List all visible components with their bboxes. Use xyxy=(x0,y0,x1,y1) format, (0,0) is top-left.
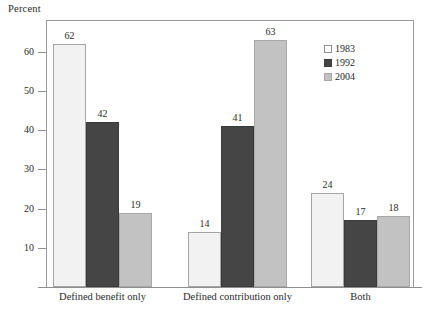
bar-2004-group-3[interactable] xyxy=(377,216,410,287)
bar-value-label-1992-group-2: 41 xyxy=(221,113,254,123)
bar-chart: Percent 102030405060 624219144163241718 … xyxy=(0,0,429,312)
bar-value-label-1983-group-2: 14 xyxy=(188,219,221,229)
y-axis-tick-label-60: 60 xyxy=(0,47,34,57)
legend-label-1992: 1992 xyxy=(335,58,355,68)
bar-1992-group-1[interactable] xyxy=(86,122,119,287)
bar-1983-group-1[interactable] xyxy=(53,44,86,287)
bar-1992-group-3[interactable] xyxy=(344,220,377,287)
legend-item-1992[interactable]: 1992 xyxy=(324,56,355,69)
legend-label-2004: 2004 xyxy=(335,72,355,82)
x-axis-baseline xyxy=(38,287,422,288)
bar-value-label-1983-group-1: 62 xyxy=(53,31,86,41)
bar-value-label-2004-group-2: 63 xyxy=(254,27,287,37)
y-axis-tick-20 xyxy=(38,209,46,210)
bar-2004-group-1[interactable] xyxy=(119,213,152,287)
y-axis-tick-label-50: 50 xyxy=(0,86,34,96)
category-label-3: Both xyxy=(271,292,429,303)
y-axis-tick-40 xyxy=(38,130,46,131)
legend-item-1983[interactable]: 1983 xyxy=(324,42,355,55)
y-axis-tick-label-10: 10 xyxy=(0,243,34,253)
y-axis-tick-label-40: 40 xyxy=(0,125,34,135)
legend: 1983 1992 2004 xyxy=(324,42,355,84)
legend-swatch-icon-2004 xyxy=(324,73,332,81)
y-axis-tick-10 xyxy=(38,248,46,249)
bar-1992-group-2[interactable] xyxy=(221,126,254,287)
bar-1983-group-2[interactable] xyxy=(188,232,221,287)
legend-item-2004[interactable]: 2004 xyxy=(324,70,355,83)
bar-2004-group-2[interactable] xyxy=(254,40,287,287)
bar-value-label-2004-group-3: 18 xyxy=(377,203,410,213)
bar-value-label-1992-group-1: 42 xyxy=(86,109,119,119)
y-axis-tick-50 xyxy=(38,91,46,92)
y-axis-tick-30 xyxy=(38,169,46,170)
legend-swatch-icon-1992 xyxy=(324,59,332,67)
y-axis-title: Percent xyxy=(8,3,41,14)
bar-1983-group-3[interactable] xyxy=(311,193,344,287)
legend-label-1983: 1983 xyxy=(335,44,355,54)
bar-value-label-1983-group-3: 24 xyxy=(311,180,344,190)
legend-swatch-icon-1983 xyxy=(324,45,332,53)
bar-value-label-2004-group-1: 19 xyxy=(119,200,152,210)
y-axis-tick-60 xyxy=(38,52,46,53)
y-axis-tick-label-20: 20 xyxy=(0,204,34,214)
y-axis-tick-label-30: 30 xyxy=(0,164,34,174)
bar-value-label-1992-group-3: 17 xyxy=(344,207,377,217)
